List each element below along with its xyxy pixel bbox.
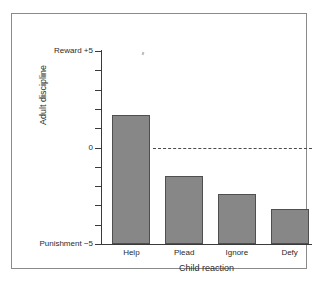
bar-help	[112, 115, 150, 244]
figure-frame: Adult discipline Reward +50Punishment −5…	[11, 13, 307, 269]
y-axis-tick-mark	[95, 244, 101, 245]
y-axis-tick-mark	[95, 225, 101, 226]
y-axis-tick-mark	[95, 167, 101, 168]
figure-canvas: Adult discipline Reward +50Punishment −5…	[0, 0, 319, 283]
y-axis-tick-mark	[95, 148, 101, 149]
y-axis-tick-mark	[95, 70, 101, 71]
y-axis-tick-label: 0	[89, 141, 93, 154]
y-axis-tick-mark	[95, 205, 101, 206]
bar-ignore	[218, 194, 256, 244]
y-axis-tick-mark	[95, 90, 101, 91]
y-axis-tick-label: Punishment −5	[39, 237, 93, 250]
category-label-ignore: Ignore	[210, 248, 264, 257]
category-label-defy: Defy	[263, 248, 317, 257]
bar-plead	[165, 176, 203, 244]
y-axis-tick-mark	[95, 109, 101, 110]
category-label-plead: Plead	[157, 248, 211, 257]
x-axis-title: Child reaction	[101, 263, 312, 273]
y-axis-tick-mark	[95, 186, 101, 187]
y-axis-title: Adult discipline	[38, 30, 48, 160]
bar-defy	[271, 209, 309, 244]
y-axis-tick-mark	[95, 51, 101, 52]
x-axis-line	[101, 244, 312, 245]
y-axis-tick-label: Reward +5	[54, 44, 93, 57]
plot-area: Reward +50Punishment −5	[101, 51, 312, 244]
y-axis-tick-mark	[95, 128, 101, 129]
category-label-help: Help	[104, 248, 158, 257]
zero-reference-line	[153, 148, 312, 149]
